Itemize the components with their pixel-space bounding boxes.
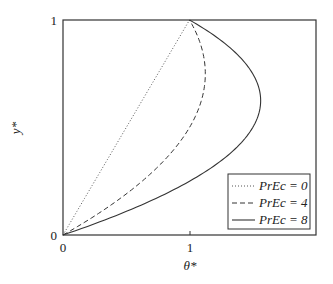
legend-label-1: PrEc = 4 [258,195,308,210]
y-tick-1: 1 [51,13,58,28]
x-tick-1: 1 [187,240,194,255]
legend-label-2: PrEc = 8 [258,212,308,227]
legend: PrEc = 0 PrEc = 4 PrEc = 8 [228,174,310,229]
curve-dashed [63,20,205,235]
legend-label-0: PrEc = 0 [258,178,308,193]
curve-dotted [63,20,190,235]
x-tick-0: 0 [60,240,67,255]
y-tick-0: 0 [51,228,58,243]
y-axis-label: y* [8,121,23,136]
x-axis-label: θ* [184,258,197,273]
chart: 0 1 0 1 θ* y* PrEc = 0 PrEc = 4 PrEc = 8 [0,0,333,284]
